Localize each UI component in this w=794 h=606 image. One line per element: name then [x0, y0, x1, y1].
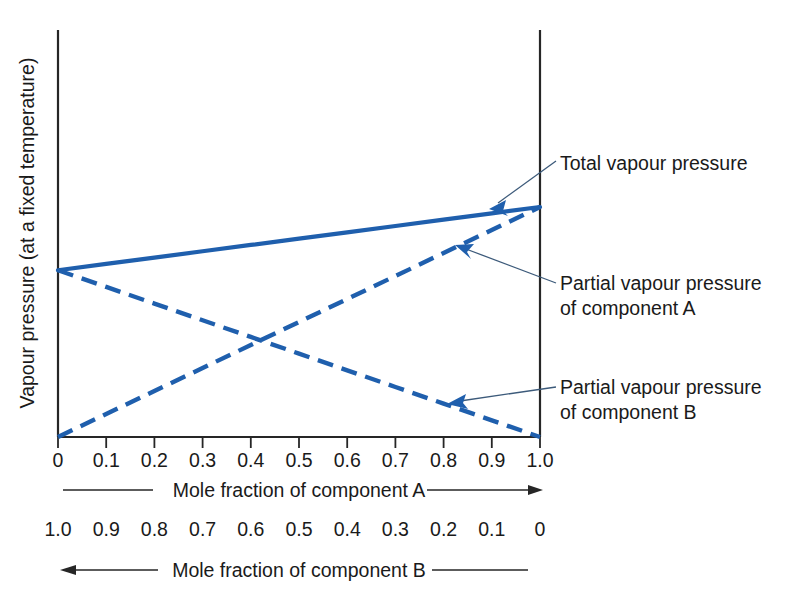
- x-tick-label-primary-2: 0.2: [141, 449, 168, 471]
- x-tick-label-primary-1: 0.1: [93, 449, 120, 471]
- leader-line-partial-a: [466, 249, 556, 283]
- y-axis-label: Vapour pressure (at a fixed temperature): [16, 58, 38, 409]
- series-partial-vapour-pressure-a: [58, 207, 540, 437]
- series-partial-vapour-pressure-b: [58, 270, 540, 437]
- annotation-partial-b-line1: Partial vapour pressure: [560, 376, 762, 398]
- x-tick-label-secondary-5: 0.5: [285, 518, 312, 540]
- x-tick-label-primary-3: 0.3: [189, 449, 216, 471]
- annotation-partial-b-line2: of component B: [560, 401, 697, 423]
- series-total-vapour-pressure: [58, 207, 540, 270]
- x-tick-label-primary-7: 0.7: [382, 449, 409, 471]
- x-tick-label-secondary-3: 0.7: [189, 518, 216, 540]
- x-tick-label-primary-5: 0.5: [285, 449, 312, 471]
- leader-line-total: [498, 161, 556, 203]
- x-axis-label-primary: Mole fraction of component A: [173, 479, 426, 501]
- x-tick-label-primary-6: 0.6: [334, 449, 361, 471]
- x-tick-label-secondary-7: 0.3: [382, 518, 409, 540]
- x-tick-label-secondary-4: 0.6: [237, 518, 264, 540]
- x-axis-label-secondary: Mole fraction of component B: [172, 559, 426, 581]
- x-tick-label-secondary-10: 0: [535, 518, 546, 540]
- x-tick-label-secondary-2: 0.8: [141, 518, 168, 540]
- x-tick-label-primary-0: 0: [53, 449, 64, 471]
- x-axis-tick-labels-secondary: 1.00.90.80.70.60.50.40.30.20.10: [44, 518, 545, 540]
- axis-arrow-right: [528, 485, 543, 495]
- x-tick-label-primary-8: 0.8: [430, 449, 457, 471]
- leader-line-partial-b: [460, 387, 556, 401]
- x-tick-label-secondary-8: 0.2: [430, 518, 457, 540]
- vapour-pressure-diagram: Vapour pressure (at a fixed temperature)…: [0, 0, 794, 606]
- annotation-total-vapour-pressure: Total vapour pressure: [560, 152, 748, 174]
- axes-group: [58, 30, 540, 437]
- x-tick-label-secondary-6: 0.4: [334, 518, 361, 540]
- x-tick-label-primary-4: 0.4: [237, 449, 264, 471]
- x-tick-label-primary-10: 1.0: [526, 449, 553, 471]
- x-tick-label-secondary-9: 0.1: [478, 518, 505, 540]
- x-axis-tick-labels-primary: 00.10.20.30.40.50.60.70.80.91.0: [53, 449, 554, 471]
- x-tick-label-secondary-1: 0.9: [93, 518, 120, 540]
- series-group: [58, 207, 540, 437]
- axis-arrow-left: [60, 565, 76, 575]
- x-tick-label-secondary-0: 1.0: [44, 518, 71, 540]
- annotation-partial-a-line2: of component A: [560, 297, 696, 319]
- annotation-partial-a-line1: Partial vapour pressure: [560, 272, 762, 294]
- x-tick-label-primary-9: 0.9: [478, 449, 505, 471]
- x-axis-tickmarks: [58, 437, 540, 448]
- chart-canvas: Vapour pressure (at a fixed temperature)…: [0, 0, 794, 606]
